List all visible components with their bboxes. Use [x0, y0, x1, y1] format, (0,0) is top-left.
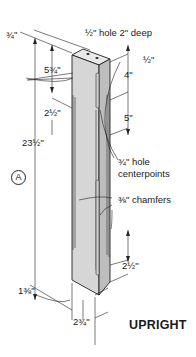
diagram-title: UPRIGHT: [129, 318, 187, 332]
part-callout-a: A: [11, 170, 26, 185]
dim-upper-spacing: 4": [124, 70, 133, 80]
dim-mid-spacing: 5": [124, 113, 133, 123]
dim-hole-centerpoints: ¾" hole centerpoints: [118, 156, 178, 180]
dim-chamfer-start: 5¾": [44, 65, 61, 75]
dim-top-thickness: ¾": [6, 30, 17, 40]
dim-top-offset: ½": [143, 55, 154, 65]
dim-left-inset: 2½": [44, 108, 61, 118]
dim-overall-height: 23½": [22, 138, 44, 148]
dim-bottom-offset: 2½": [122, 261, 139, 271]
dim-chamfers: ⅜" chamfers: [118, 195, 171, 205]
dim-hole: ½" hole 2" deep: [85, 28, 152, 38]
dim-width-wide: 2¾": [73, 317, 90, 327]
diagram-root: ¾" ½" hole 2" deep ½" 4" 5" 5¾" 2½" 23½"…: [0, 0, 196, 357]
dim-width-thin: 1⅜": [18, 286, 35, 296]
post-body: [72, 49, 110, 295]
